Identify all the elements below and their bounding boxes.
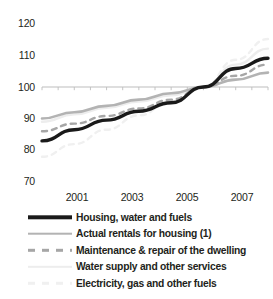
plot-area: 120 110 100 90 80 70 2001 2003 2005 2007: [0, 0, 273, 205]
legend-swatch-line: [28, 266, 72, 268]
legend-item-housing-water-and-fuels: Housing, water and fuels: [0, 209, 273, 226]
legend-swatch-line: [28, 216, 72, 219]
legend-swatch-water-supply-and-other-services: [28, 260, 72, 274]
legend-item-actual-rentals-for-housing: Actual rentals for housing (1): [0, 226, 273, 243]
legend-label-housing-water-and-fuels: Housing, water and fuels: [76, 212, 192, 223]
legend-swatch-line: [28, 249, 72, 251]
legend-label-water-supply-and-other-services: Water supply and other services: [76, 261, 226, 272]
legend-label-actual-rentals-for-housing: Actual rentals for housing (1): [76, 228, 212, 239]
legend-swatch-line: [28, 232, 72, 235]
legend-item-maintenance-and-repair-of-the-dwelling: Maintenance & repair of the dwelling: [0, 242, 273, 259]
legend-label-electricity-gas-and-other-fuels: Electricity, gas and other fuels: [76, 278, 217, 289]
series-canvas: [0, 0, 273, 205]
legend-swatch-electricity-gas-and-other-fuels: [28, 276, 72, 290]
legend-item-electricity-gas-and-other-fuels: Electricity, gas and other fuels: [0, 275, 273, 292]
legend-swatch-housing-water-and-fuels: [28, 210, 72, 224]
legend-swatch-actual-rentals-for-housing: [28, 227, 72, 241]
legend-label-maintenance-and-repair-of-the-dwelling: Maintenance & repair of the dwelling: [76, 245, 246, 256]
chart-legend: Housing, water and fuels Actual rentals …: [0, 209, 273, 292]
series-line: [42, 73, 268, 119]
data-series-group: [42, 39, 268, 157]
chart-figure: 120 110 100 90 80 70 2001 2003 2005 2007…: [0, 0, 273, 299]
axis-baseline-group: [42, 87, 268, 90]
legend-item-water-supply-and-other-services: Water supply and other services: [0, 259, 273, 276]
legend-swatch-line: [28, 282, 72, 284]
legend-swatch-maintenance-and-repair-of-the-dwelling: [28, 243, 72, 257]
